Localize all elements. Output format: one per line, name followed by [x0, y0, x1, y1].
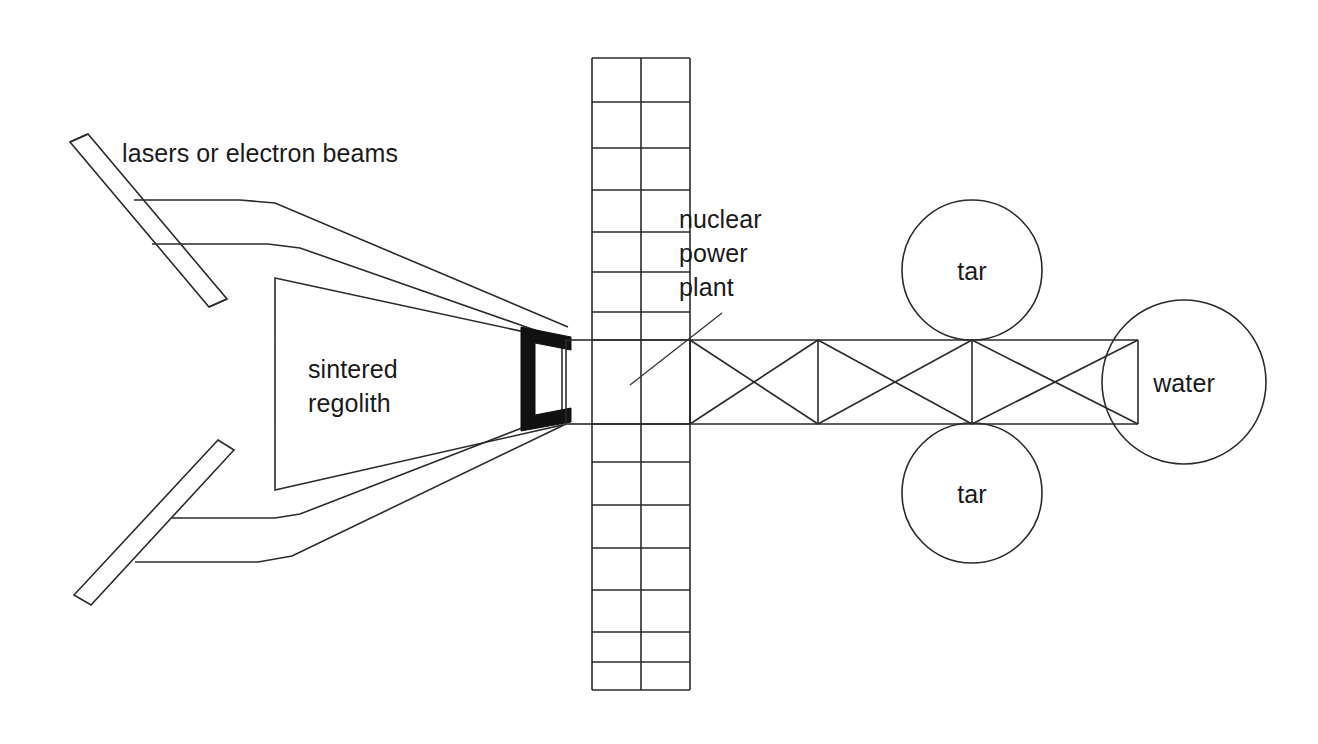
label-tar-bottom: tar — [957, 480, 986, 508]
schematic-drawing: lasers or electron beams sintered regoli… — [0, 0, 1318, 744]
nuclear-power-plant-leader — [630, 313, 722, 385]
label-sintered-regolith-line2: regolith — [308, 389, 391, 417]
label-nuclear-power-plant-line3: plant — [679, 273, 734, 301]
label-sintered-regolith-line1: sintered — [308, 355, 398, 383]
beam-emitter-lower — [74, 440, 234, 605]
label-nuclear-power-plant-line1: nuclear — [679, 205, 762, 233]
label-tar-top: tar — [957, 257, 986, 285]
truss — [690, 340, 1138, 424]
label-water: water — [1152, 369, 1215, 397]
label-lasers-or-electron-beams: lasers or electron beams — [122, 139, 398, 167]
funnel-upper — [134, 200, 568, 341]
label-nuclear-power-plant-line2: power — [679, 239, 748, 267]
diagram-canvas: lasers or electron beams sintered regoli… — [0, 0, 1318, 744]
sintered-regolith-block — [275, 278, 562, 490]
black-bracket — [521, 327, 571, 431]
radiator-column — [592, 58, 690, 690]
